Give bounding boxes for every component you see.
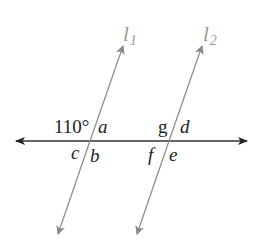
angle-label-110: 110° bbox=[54, 116, 89, 137]
angle-label-e: e bbox=[169, 144, 177, 165]
angle-label-f: f bbox=[148, 144, 156, 165]
angle-label-a: a bbox=[98, 116, 108, 137]
angle-label-b: b bbox=[90, 145, 100, 166]
diagram-canvas: l1 l2 110° a c b g d f e bbox=[0, 0, 265, 243]
angle-label-d: d bbox=[180, 116, 190, 137]
angle-label-g: g bbox=[158, 116, 168, 137]
angle-label-c: c bbox=[71, 142, 80, 163]
label-l1: l1 bbox=[123, 22, 137, 48]
label-l2: l2 bbox=[203, 22, 217, 48]
